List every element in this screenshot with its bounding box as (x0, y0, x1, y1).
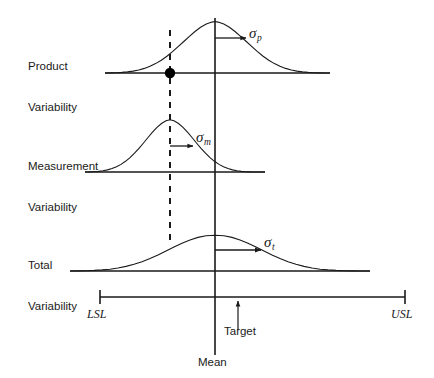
sigma-t-symbol: σ (264, 234, 271, 250)
usl-label: USL (391, 307, 412, 322)
sigma-p-symbol: σ (249, 25, 256, 41)
sigma-m-symbol: σ (196, 129, 203, 145)
sigma-t-subscript: t (272, 242, 275, 252)
total-variability-label-line1: Total (28, 259, 77, 273)
total-variability-label-line2: Variability (28, 300, 77, 314)
spec-limit-axis (100, 290, 405, 330)
product-variability-curve (105, 22, 330, 74)
sigma-p-label: σp (249, 25, 261, 42)
total-variability-label: Total Variability (28, 232, 77, 340)
total-variability-curve (70, 235, 370, 271)
mean-label: Mean (198, 356, 227, 368)
measurement-variability-row (85, 120, 265, 172)
variability-diagram: Product Variability Measurement Variabil… (0, 0, 434, 378)
product-variability-label-line1: Product (28, 60, 77, 74)
measurement-variability-label-line1: Measurement (28, 160, 98, 174)
total-variability-curve-hidden (70, 232, 370, 271)
lsl-label: LSL (87, 307, 106, 322)
product-variability-label-line2: Variability (28, 101, 77, 115)
product-variability-label: Product Variability (28, 33, 77, 141)
target-label: Target (224, 325, 256, 337)
product-variability-row (105, 22, 330, 79)
observed-measurement-dot (165, 68, 175, 78)
measurement-variability-label: Measurement Variability (28, 133, 98, 241)
total-variability-row (70, 232, 370, 271)
sigma-t-label: σt (264, 234, 274, 251)
measurement-variability-label-line2: Variability (28, 201, 98, 215)
sigma-p-subscript: p (257, 33, 262, 43)
sigma-m-label: σm (196, 129, 210, 146)
sigma-m-subscript: m (204, 137, 211, 147)
